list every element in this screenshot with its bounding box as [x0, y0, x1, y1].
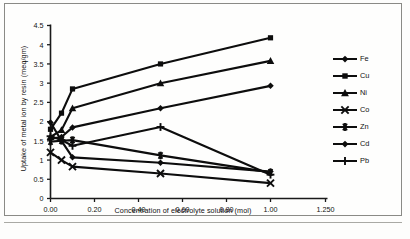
y-tick-label: 3 [22, 79, 44, 88]
point-Cu-2 [70, 86, 75, 91]
point-Pb-2 [69, 142, 77, 150]
series-Fe [47, 83, 274, 143]
point-Cu-4 [268, 35, 273, 40]
legend-item-ni: Ni [333, 84, 395, 101]
legend-key-zn-icon [333, 121, 357, 133]
legend-item-co: Co [333, 101, 395, 118]
legend-marker-plus-icon [333, 155, 357, 167]
series-Zn [49, 136, 273, 176]
legend-marker-ni [341, 89, 349, 96]
legend-label: Zn [360, 122, 369, 131]
legend-marker-asterisk-icon [333, 121, 357, 133]
point-Cd-3 [157, 159, 164, 166]
legend-marker-square-icon [333, 70, 357, 82]
y-tick-label: 2 [22, 117, 44, 126]
point-Pb-3 [157, 123, 165, 131]
y-tick-label: 0.5 [22, 175, 44, 184]
line-chart: Uptake of metal ion by resin (meq/gm) Co… [0, 0, 410, 219]
legend-marker-triangle-icon [333, 87, 357, 99]
legend-key-cd-icon [333, 138, 357, 150]
y-tick-label: 1.5 [22, 137, 44, 146]
page-bottom-rule [4, 222, 402, 223]
x-tick-label: 0.40 [124, 205, 154, 214]
point-Fe-3 [157, 105, 164, 112]
legend-item-cu: Cu [333, 67, 395, 84]
y-tick-label: 3.5 [22, 60, 44, 69]
legend-label: Cd [360, 139, 369, 148]
legend-marker-cross-icon [333, 104, 357, 116]
y-tick-label: 0 [22, 194, 44, 203]
legend-label: Pb [360, 156, 369, 165]
series-line-Fe [51, 86, 271, 139]
x-tick-label: 1.00 [256, 205, 286, 214]
legend-marker-dot-diamond-icon [333, 138, 357, 150]
x-tick-label: 0.60 [168, 205, 198, 214]
y-tick-label: 2.5 [22, 98, 44, 107]
y-tick-label: 1 [22, 156, 44, 165]
series-layer [47, 35, 275, 186]
point-Fe-4 [267, 83, 274, 90]
legend-label: Cu [360, 71, 369, 80]
legend-item-pb: Pb [333, 152, 395, 169]
chart-legend: FeCuNiCoZnCdPb [333, 50, 395, 169]
legend-label: Co [360, 105, 369, 114]
legend-label: Ni [360, 88, 367, 97]
x-tick-label: 0.20 [80, 205, 110, 214]
y-tick-label: 4 [22, 41, 44, 50]
legend-item-zn: Zn [333, 118, 395, 135]
x-tick-label: 0.80 [212, 205, 242, 214]
legend-key-ni-icon [333, 87, 357, 99]
legend-marker-cd [342, 140, 349, 147]
legend-marker-cu [342, 73, 347, 78]
legend-item-cd: Cd [333, 135, 395, 152]
point-Co-1 [58, 157, 65, 164]
legend-marker-co [341, 106, 348, 113]
legend-label: Fe [360, 54, 369, 63]
legend-key-cu-icon [333, 70, 357, 82]
series-Pb [47, 123, 275, 178]
legend-marker-diamond-icon [333, 53, 357, 65]
x-tick-label: 0.00 [36, 205, 66, 214]
legend-key-fe-icon [333, 53, 357, 65]
scanned-figure-page: Uptake of metal ion by resin (meq/gm) Co… [0, 0, 410, 239]
y-tick-label: 4.5 [22, 21, 44, 30]
point-Ni-1 [58, 126, 66, 133]
legend-item-fe: Fe [333, 50, 395, 67]
legend-key-co-icon [333, 104, 357, 116]
x-tick-label: 1.250 [311, 205, 341, 214]
point-Cu-3 [158, 61, 163, 66]
legend-marker-pb [341, 156, 349, 164]
legend-marker-zn [343, 123, 347, 131]
point-Cu-1 [59, 111, 64, 116]
legend-marker-fe [342, 55, 349, 62]
legend-key-pb-icon [333, 155, 357, 167]
